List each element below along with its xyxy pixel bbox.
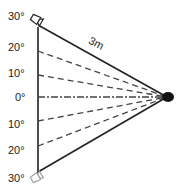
camera-angle-diagram: 30° 20° 10° 0° 10° 20° 30° 3m [0, 0, 186, 191]
target-dot-icon [162, 92, 174, 102]
angle-label-10-bottom: 10° [8, 119, 25, 130]
diagram-lines [0, 0, 186, 191]
angle-label-20-bottom: 20° [8, 145, 25, 156]
angle-label-10-top: 10° [8, 68, 25, 79]
angle-label-30-top: 30° [8, 11, 25, 22]
camera-top-icon [30, 14, 44, 26]
angle-label-0: 0° [15, 92, 26, 103]
boundary-line-bottom [38, 97, 167, 172]
angle-line-20-top [38, 51, 167, 97]
camera-bottom-icon [30, 171, 44, 183]
angle-line-20-bottom [38, 97, 167, 146]
angle-label-20-top: 20° [8, 42, 25, 53]
angle-label-30-bottom: 30° [8, 173, 25, 184]
